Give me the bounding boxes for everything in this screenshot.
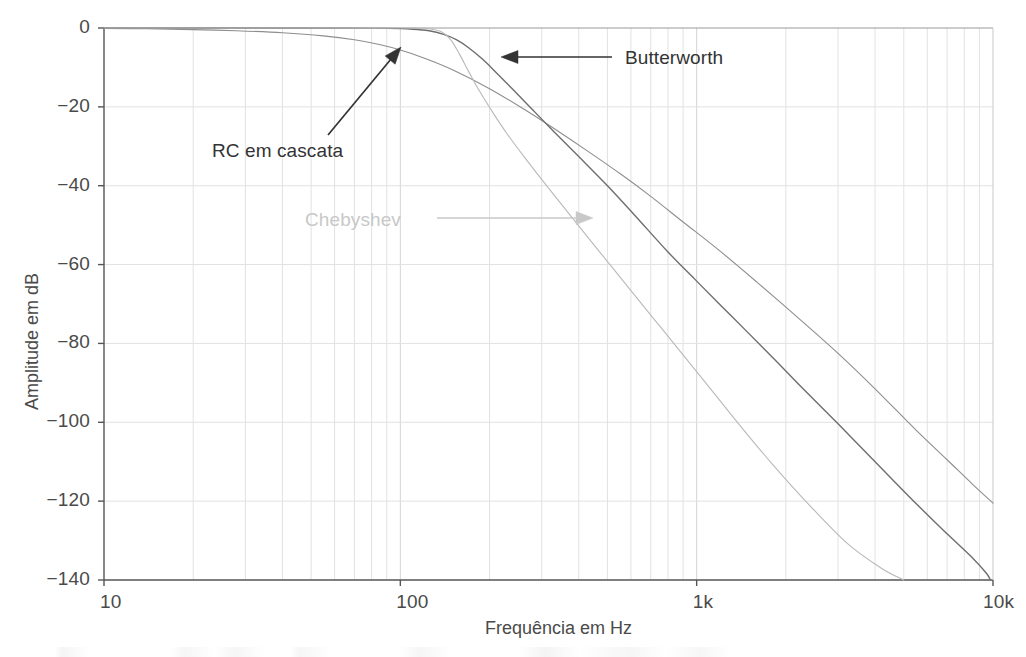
y-tick-label: 0 [79, 16, 90, 38]
x-tick-label: 10k [983, 591, 1014, 613]
y-tick-label: −100 [46, 410, 90, 432]
bode-plot-figure: 0−20−40−60−80−100−120−140 101001k10k Amp… [0, 0, 1026, 657]
series-layer [104, 28, 993, 580]
annotation-label-rc-em-cascata: RC em cascata [212, 140, 343, 162]
plot-canvas [0, 0, 1026, 657]
y-tick-label: −40 [57, 174, 90, 196]
annotation-label-chebyshev: Chebyshev [305, 209, 401, 231]
x-tick-label: 100 [396, 591, 428, 613]
annotation-arrow-head-butterworth [501, 51, 518, 64]
x-axis-title: Frequência em Hz [485, 618, 632, 639]
x-tick-label: 10 [100, 591, 122, 613]
y-tick-label: −120 [46, 489, 90, 511]
x-tick-label: 1k [693, 591, 713, 613]
y-tick-label: −80 [57, 331, 90, 353]
annotation-arrow-head-rc-cascata [385, 47, 401, 64]
axis-layer [98, 28, 993, 586]
grid-layer [104, 28, 993, 580]
annotation-label-butterworth: Butterworth [625, 47, 723, 69]
series-line-butterworth [104, 28, 990, 580]
annotation-arrow-head-chebyshev [576, 212, 593, 225]
series-line-chebyshev [104, 28, 904, 580]
y-tick-label: −60 [57, 253, 90, 275]
series-line-rc-em-cascata [104, 28, 993, 503]
page-edge-artifact [0, 647, 1026, 657]
y-axis-title: Amplitude em dB [22, 273, 43, 410]
y-tick-label: −20 [57, 95, 90, 117]
annotation-arrow-shaft-rc-cascata [328, 57, 393, 135]
y-tick-label: −140 [46, 568, 90, 590]
